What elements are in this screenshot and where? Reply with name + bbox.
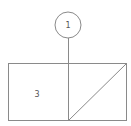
top-node: 1	[55, 12, 81, 38]
box-label: 3	[34, 90, 39, 99]
diagram-canvas: 1 3	[0, 0, 131, 126]
node-label: 1	[65, 21, 70, 30]
outer-rectangle	[9, 64, 127, 121]
bottom-box: 3	[9, 64, 127, 121]
diagonal-line	[69, 64, 127, 121]
